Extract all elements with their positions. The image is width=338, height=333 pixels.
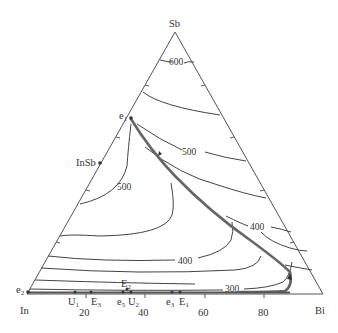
label-U1: U1	[68, 296, 80, 309]
isotherm-500-sb	[205, 152, 246, 161]
label-e5: e5	[117, 296, 126, 309]
isotherm-label-600: 600	[169, 57, 184, 67]
left-edge-tick	[56, 242, 60, 243]
vertex-label-in: In	[20, 305, 29, 316]
isotherm-400-mid	[48, 256, 175, 261]
label-E1: E1	[179, 296, 189, 309]
label-E3: E3	[91, 296, 101, 309]
isotherm-label-300: 300	[225, 284, 240, 294]
arrow-icon	[158, 151, 165, 157]
point-insb	[98, 161, 102, 165]
label-E3-sub: 3	[97, 301, 101, 309]
right-edge-tick	[290, 242, 294, 243]
point-e3	[171, 291, 174, 294]
vertex-label-bi: Bi	[315, 305, 325, 316]
point-e1-cap	[179, 291, 182, 294]
point-e5	[122, 291, 125, 294]
compound-label-insb: InSb	[76, 157, 96, 168]
label-U2: U2	[128, 296, 140, 309]
axis-tick-label: 20	[79, 307, 90, 318]
triangle-frame	[27, 32, 323, 294]
right-edge-tick	[260, 190, 264, 191]
label-e5-sub: 5	[122, 301, 126, 309]
label-U1-sub: 1	[76, 301, 80, 309]
label-e2: e2	[16, 284, 25, 297]
label-e1-sub: 1	[124, 115, 128, 123]
right-edge-tick	[201, 85, 205, 86]
left-edge-tick	[145, 85, 149, 86]
label-e1: e1	[119, 110, 128, 123]
point-e1	[129, 116, 133, 120]
label-e3: e3	[166, 296, 175, 309]
ternary-diagram: Sb In Bi 20 40 60 80 InSb 600 500 500 40…	[0, 0, 338, 333]
vertex-label-sb: Sb	[169, 18, 180, 29]
isotherm-label-400-right: 400	[250, 222, 265, 232]
axis-tick-label: 80	[258, 307, 269, 318]
isotherm-sb-1	[143, 92, 220, 115]
label-U2-sub: 2	[136, 301, 140, 309]
isotherm-label-500-sb: 500	[182, 147, 197, 157]
label-E1-sub: 1	[185, 301, 189, 309]
monovariant-curve	[131, 119, 291, 292]
axis-tick-label: 60	[198, 307, 209, 318]
label-e3-sub: 3	[171, 301, 175, 309]
point-e3-cap	[90, 291, 93, 294]
isotherm-label-400-mid: 400	[178, 256, 193, 266]
left-edge-tick	[116, 137, 120, 138]
label-e2-sub: 2	[21, 289, 25, 297]
isotherm-label-500-insb: 500	[117, 182, 132, 192]
label-E2-sub: 2	[127, 283, 131, 291]
isotherm-bi-1	[261, 232, 307, 251]
isotherm-400-right	[271, 227, 291, 232]
left-edge-tick	[86, 190, 90, 191]
axis-tick-label: 40	[138, 307, 149, 318]
point-e2	[26, 290, 30, 294]
isotherm-sb-3	[145, 147, 266, 198]
point-u1	[74, 291, 77, 294]
isotherm-400-mid	[198, 222, 233, 258]
isotherm-low-2	[35, 280, 195, 284]
right-edge-tick	[230, 137, 234, 138]
